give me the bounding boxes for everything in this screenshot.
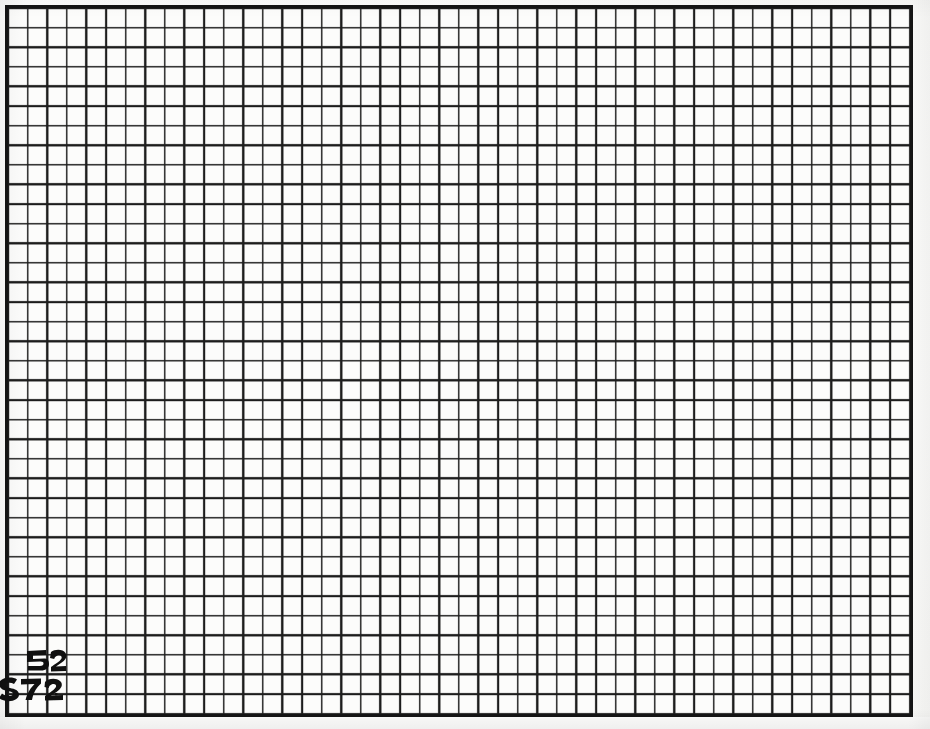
bottom-paper-margin xyxy=(0,717,930,729)
scanned-page xyxy=(0,0,930,729)
grid-line-overlay xyxy=(8,8,910,714)
ruled-grid-field xyxy=(5,5,913,717)
